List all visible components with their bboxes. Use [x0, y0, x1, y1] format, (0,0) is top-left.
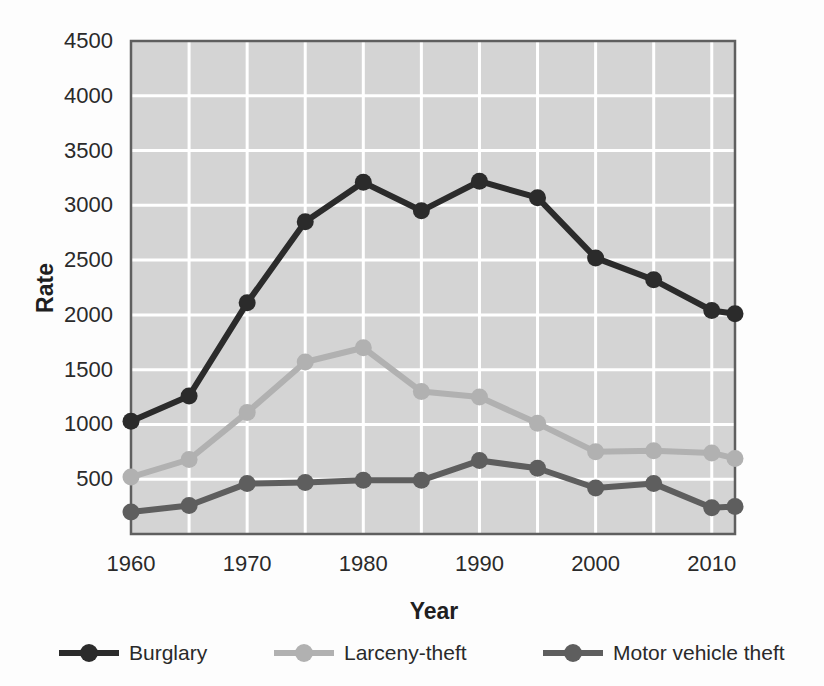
- legend-item-burglary: Burglary: [58, 640, 207, 666]
- data-point-larceny-theft: [727, 450, 744, 467]
- data-point-larceny-theft: [181, 451, 198, 468]
- data-point-burglary: [703, 302, 720, 319]
- data-point-larceny-theft: [645, 442, 662, 459]
- data-point-motor-vehicle-theft: [297, 474, 314, 491]
- data-point-larceny-theft: [355, 339, 372, 356]
- data-point-burglary: [181, 387, 198, 404]
- x-tick-label: 1990: [439, 551, 519, 577]
- data-point-burglary: [413, 202, 430, 219]
- y-tick-label: 3000: [0, 192, 113, 218]
- data-point-burglary: [123, 413, 140, 430]
- data-point-larceny-theft: [587, 443, 604, 460]
- y-tick-label: 3500: [0, 138, 113, 164]
- data-point-larceny-theft: [703, 444, 720, 461]
- data-point-burglary: [529, 189, 546, 206]
- data-point-motor-vehicle-theft: [529, 460, 546, 477]
- y-tick-label: 1000: [0, 411, 113, 437]
- data-point-burglary: [355, 174, 372, 191]
- data-point-motor-vehicle-theft: [587, 479, 604, 496]
- x-tick-label: 2010: [672, 551, 752, 577]
- y-tick-label: 500: [0, 466, 113, 492]
- data-point-larceny-theft: [239, 404, 256, 421]
- data-point-motor-vehicle-theft: [703, 499, 720, 516]
- data-point-burglary: [587, 249, 604, 266]
- crime-rate-chart-figure: 50010001500200025003000350040004500 1960…: [0, 0, 824, 686]
- data-point-burglary: [727, 305, 744, 322]
- x-tick-label: 2000: [556, 551, 636, 577]
- data-point-motor-vehicle-theft: [181, 497, 198, 514]
- legend-item-motor-vehicle-theft: Motor vehicle theft: [542, 640, 785, 666]
- data-point-burglary: [471, 173, 488, 190]
- data-point-larceny-theft: [413, 383, 430, 400]
- x-tick-label: 1980: [323, 551, 403, 577]
- data-point-larceny-theft: [297, 353, 314, 370]
- data-point-motor-vehicle-theft: [727, 498, 744, 515]
- legend-item-label: Burglary: [129, 641, 207, 665]
- data-point-motor-vehicle-theft: [471, 452, 488, 469]
- data-point-larceny-theft: [123, 469, 140, 486]
- data-point-larceny-theft: [529, 415, 546, 432]
- y-tick-label: 4000: [0, 83, 113, 109]
- y-tick-label: 1500: [0, 357, 113, 383]
- x-tick-label: 1970: [207, 551, 287, 577]
- data-point-larceny-theft: [471, 389, 488, 406]
- legend-item-larceny-theft: Larceny-theft: [273, 640, 467, 666]
- y-axis-title: Rate: [32, 263, 59, 313]
- legend-item-label: Larceny-theft: [344, 641, 467, 665]
- data-point-burglary: [239, 294, 256, 311]
- legend-line-marker-icon: [542, 642, 604, 664]
- legend-item-label: Motor vehicle theft: [613, 641, 785, 665]
- line-chart-plot: [0, 0, 824, 686]
- data-point-motor-vehicle-theft: [239, 475, 256, 492]
- data-point-motor-vehicle-theft: [413, 472, 430, 489]
- data-point-motor-vehicle-theft: [123, 504, 140, 521]
- legend-line-marker-icon: [58, 642, 120, 664]
- data-point-motor-vehicle-theft: [355, 472, 372, 489]
- legend-line-marker-icon: [273, 642, 335, 664]
- y-tick-label: 4500: [0, 28, 113, 54]
- plot-area: [131, 41, 735, 534]
- x-tick-label: 1960: [91, 551, 171, 577]
- data-point-burglary: [645, 271, 662, 288]
- data-point-burglary: [297, 213, 314, 230]
- data-point-motor-vehicle-theft: [645, 475, 662, 492]
- x-axis-title: Year: [410, 598, 459, 625]
